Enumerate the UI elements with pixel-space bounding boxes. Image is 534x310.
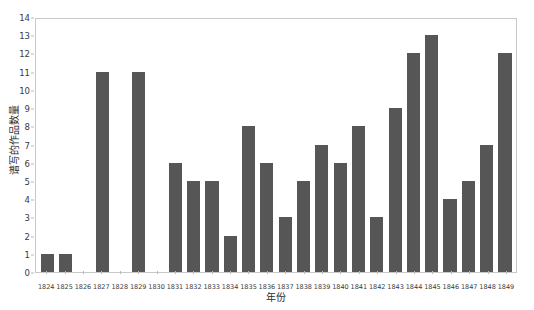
y-tick-mark: [31, 163, 34, 164]
y-tick-label: 11: [19, 68, 30, 78]
x-tick-mark: [396, 271, 397, 274]
y-tick-mark: [31, 200, 34, 201]
y-tick-label: 1: [25, 250, 30, 260]
x-tick-slot: 1838: [294, 274, 312, 288]
y-tick-mark: [31, 127, 34, 128]
y-tick-mark: [31, 18, 34, 19]
x-tick-mark: [65, 271, 66, 274]
x-tick-slot: 1845: [423, 274, 441, 288]
y-tick-mark: [31, 90, 34, 91]
bar[interactable]: [205, 181, 218, 272]
x-tick-slot: 1848: [478, 274, 496, 288]
bar-slot: [478, 19, 496, 272]
y-tick-mark: [31, 273, 34, 274]
y-axis-tick-labels: 01234567891011121314: [14, 18, 32, 273]
x-tick-mark: [83, 271, 84, 274]
bar-slot: [441, 19, 459, 272]
x-tick-slot: 1826: [74, 274, 92, 288]
bar[interactable]: [59, 254, 72, 272]
x-axis-tick-labels: 1824182518261827182818291830183118321833…: [35, 274, 517, 288]
bar[interactable]: [498, 53, 511, 272]
x-axis-title: 年份: [35, 289, 517, 304]
x-tick-mark: [212, 271, 213, 274]
y-tick-label: 2: [25, 232, 30, 242]
y-tick-mark: [31, 145, 34, 146]
bar[interactable]: [480, 145, 493, 273]
bar-slot: [56, 19, 74, 272]
x-tick-slot: 1828: [111, 274, 129, 288]
x-tick-slot: 1846: [442, 274, 460, 288]
x-tick-slot: 1830: [147, 274, 165, 288]
bar[interactable]: [352, 126, 365, 272]
bar-slot: [423, 19, 441, 272]
bar-slot: [111, 19, 129, 272]
x-tick-mark: [359, 271, 360, 274]
y-tick-mark: [31, 36, 34, 37]
bar[interactable]: [279, 217, 292, 272]
x-tick-slot: 1839: [313, 274, 331, 288]
y-tick-label: 5: [25, 177, 30, 187]
bar-slot: [38, 19, 56, 272]
x-tick-mark: [488, 271, 489, 274]
x-tick-slot: 1832: [184, 274, 202, 288]
x-tick-mark: [506, 271, 507, 274]
x-tick-mark: [157, 271, 158, 274]
bar[interactable]: [425, 35, 438, 272]
bar[interactable]: [389, 108, 402, 272]
bar[interactable]: [260, 163, 273, 272]
bar[interactable]: [297, 181, 310, 272]
y-tick-mark: [31, 181, 34, 182]
bar[interactable]: [224, 236, 237, 272]
x-tick-mark: [267, 271, 268, 274]
x-tick-mark: [193, 271, 194, 274]
bar-slot: [130, 19, 148, 272]
bar[interactable]: [462, 181, 475, 272]
x-tick-slot: 1837: [276, 274, 294, 288]
x-tick-slot: 1843: [386, 274, 404, 288]
x-tick-mark: [230, 271, 231, 274]
x-tick-slot: 1841: [350, 274, 368, 288]
x-tick-slot: 1824: [37, 274, 55, 288]
bar-slot: [185, 19, 203, 272]
x-tick-mark: [304, 271, 305, 274]
x-tick-slot: 1847: [460, 274, 478, 288]
bar-slot: [276, 19, 294, 272]
x-tick-mark: [101, 271, 102, 274]
x-tick-mark: [120, 271, 121, 274]
x-tick-mark: [248, 271, 249, 274]
bar[interactable]: [96, 72, 109, 272]
bar-slot: [313, 19, 331, 272]
x-tick-mark: [340, 271, 341, 274]
x-tick-mark: [46, 271, 47, 274]
bar-slot: [404, 19, 422, 272]
bar[interactable]: [443, 199, 456, 272]
bar-slot: [386, 19, 404, 272]
y-tick-mark: [31, 236, 34, 237]
bar[interactable]: [370, 217, 383, 272]
y-tick-label: 8: [25, 122, 30, 132]
bar[interactable]: [41, 254, 54, 272]
x-tick-slot: 1829: [129, 274, 147, 288]
y-tick-mark: [31, 54, 34, 55]
bar[interactable]: [169, 163, 182, 272]
bar[interactable]: [407, 53, 420, 272]
y-tick-label: 9: [25, 104, 30, 114]
y-tick-label: 13: [19, 31, 30, 41]
bar[interactable]: [242, 126, 255, 272]
bar[interactable]: [187, 181, 200, 272]
y-tick-mark: [31, 254, 34, 255]
bar-slot: [496, 19, 514, 272]
bar-slot: [294, 19, 312, 272]
y-tick-label: 10: [19, 86, 30, 96]
plot-area: [35, 18, 517, 273]
bar-chart: 谱写的作品数量 01234567891011121314 18241825182…: [0, 0, 534, 310]
bar-slot: [93, 19, 111, 272]
bar[interactable]: [334, 163, 347, 272]
x-tick-slot: 1844: [405, 274, 423, 288]
bar[interactable]: [132, 72, 145, 272]
y-tick-label: 3: [25, 213, 30, 223]
x-tick-mark: [377, 271, 378, 274]
x-tick-mark: [138, 271, 139, 274]
y-tick-label: 4: [25, 195, 30, 205]
bar[interactable]: [315, 145, 328, 273]
